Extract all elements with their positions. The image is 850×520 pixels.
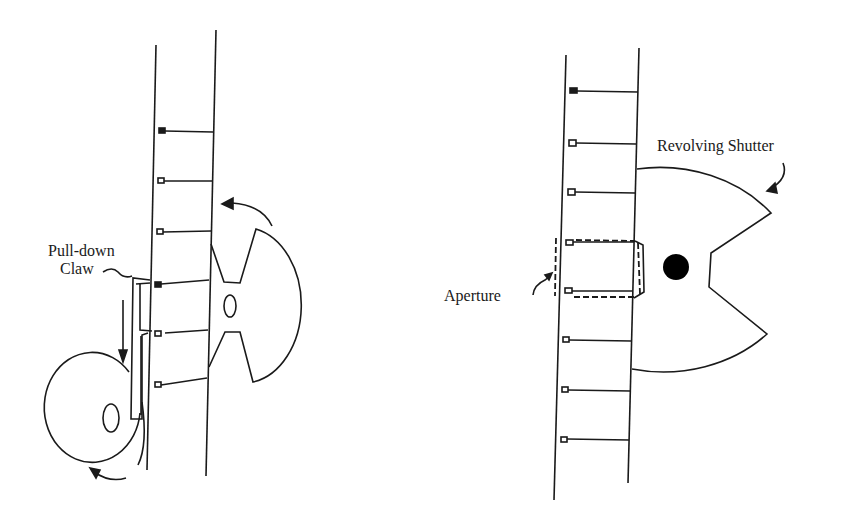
projector-mechanism-diagram: Pull-down Claw Revolving Shutter Apertur… [0,0,850,520]
revolving-shutter-label: Revolving Shutter [657,137,774,155]
right-revolving-shutter [632,167,771,371]
left-claw-pointer [103,269,132,277]
left-revolving-shutter [209,229,301,382]
pull-down-claw-label-line2: Claw [60,260,94,278]
right-aperture-frame [555,238,644,298]
right-sprocket-holes [561,88,638,442]
left-film-edge-left [147,45,156,470]
pull-down-claw-label-line1: Pull-down [48,242,115,260]
aperture-label: Aperture [444,287,501,305]
right-film-edge-right [628,48,639,483]
left-down-arrow-icon [119,300,127,362]
right-panel [533,48,784,500]
left-shutter-rotation-arrow-icon [222,198,272,226]
right-shutter-pointer [767,163,784,193]
left-cam-wheel [44,352,144,465]
left-sprocket-holes [155,128,213,387]
left-wheel-rotation-arrow-icon [90,468,126,480]
